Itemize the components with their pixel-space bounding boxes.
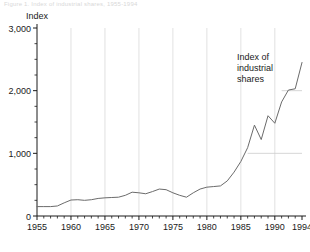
x-tick-label: 1980 bbox=[197, 222, 217, 232]
chart-figure: Figure 1. Index of industrial shares, 19… bbox=[0, 0, 310, 252]
y-tick-labels: 01,0002,0003,000 bbox=[8, 24, 31, 223]
x-tick-label: 1970 bbox=[129, 222, 149, 232]
y-tick-label: 0 bbox=[26, 212, 31, 222]
x-tick-label: 1985 bbox=[231, 222, 251, 232]
x-tick-label: 1960 bbox=[61, 222, 81, 232]
series-industrial-shares bbox=[37, 62, 302, 206]
x-tick-label: 1975 bbox=[163, 222, 183, 232]
x-tick-label: 1955 bbox=[27, 222, 47, 232]
y-axis bbox=[33, 24, 37, 216]
annotation-line: Index of bbox=[237, 52, 270, 62]
annotation-line: industrial bbox=[237, 63, 273, 73]
y-tick-label: 3,000 bbox=[8, 24, 31, 34]
x-tick-label: 1990 bbox=[265, 222, 285, 232]
x-tick-label: 1965 bbox=[95, 222, 115, 232]
x-tick-label: 1994 bbox=[292, 222, 310, 232]
line-chart-plot: 01,0002,0003,000 19551960196519701975198… bbox=[0, 0, 310, 252]
chart-annotation: Index ofindustrialshares bbox=[237, 52, 273, 84]
x-tick-labels: 195519601965197019751980198519901994 bbox=[27, 222, 310, 232]
y-tick-label: 1,000 bbox=[8, 149, 31, 159]
y-tick-label: 2,000 bbox=[8, 86, 31, 96]
data-series-line bbox=[37, 62, 302, 206]
annotation-line: shares bbox=[237, 74, 265, 84]
x-axis bbox=[37, 216, 306, 220]
